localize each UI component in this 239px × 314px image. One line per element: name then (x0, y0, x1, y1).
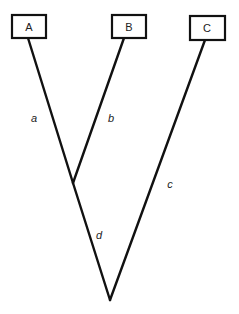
leaf-a: A (12, 15, 46, 38)
branch-a-label: a (31, 112, 37, 124)
leaf-a-label: A (25, 21, 33, 33)
leaf-b-label: B (125, 21, 132, 33)
branch-b (73, 38, 124, 183)
leaf-c: C (190, 16, 225, 40)
branch-b-label: b (108, 112, 114, 124)
branch-d (73, 183, 110, 300)
leaf-c-label: C (203, 22, 211, 34)
branch-c (110, 40, 205, 300)
branch-a (28, 38, 73, 183)
leaf-b: B (112, 15, 146, 38)
branch-d-label: d (96, 229, 103, 241)
tree-diagram: A B C a b c d (0, 0, 239, 314)
branch-c-label: c (167, 178, 173, 190)
